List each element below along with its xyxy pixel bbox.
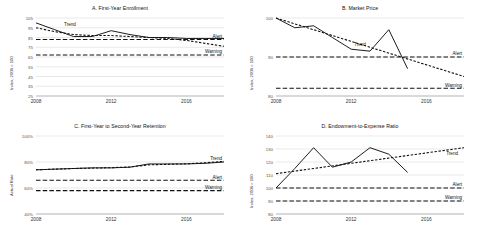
x-tick-label: 2016 — [181, 99, 192, 104]
y-tick-label: 75 — [14, 45, 33, 50]
y-tick-label: 140 — [254, 134, 273, 139]
x-tick-label: 2016 — [421, 99, 432, 104]
y-tick-label: 110 — [254, 173, 273, 178]
x-tick-label: 2012 — [346, 217, 357, 222]
warning-threshold-label: Warning — [445, 83, 462, 88]
panel-b-title: B. Market Price — [240, 5, 480, 11]
trend-line — [36, 28, 224, 47]
x-tick-label: 2012 — [106, 217, 117, 222]
x-tick-label: 2008 — [31, 99, 42, 104]
alert-threshold-label: Alert — [213, 34, 222, 39]
warning-threshold-label: Warning — [445, 195, 462, 200]
y-tick-label: 100 — [254, 16, 273, 21]
y-tick-label: 130 — [254, 147, 273, 152]
trend-line — [276, 148, 464, 174]
trend-label: Trend — [354, 42, 366, 47]
y-tick-label: 85 — [14, 35, 33, 40]
warning-threshold-label: Warning — [205, 49, 222, 54]
chart-panel-b: B. Market Price Index, 2008 = 100 100908… — [240, 0, 480, 118]
y-tick-label: 105 — [14, 16, 33, 21]
alert-threshold-label: Alert — [453, 51, 462, 56]
y-tick-label: 45 — [14, 74, 33, 79]
y-tick-label: 80% — [14, 160, 33, 165]
actual-line — [276, 148, 408, 188]
x-tick-label: 2016 — [421, 217, 432, 222]
x-tick-label: 2008 — [271, 217, 282, 222]
y-tick-label: 90 — [254, 55, 273, 60]
y-tick-label: 35 — [14, 84, 33, 89]
chart-panel-c: C. First-Year to Second-Year Retention A… — [0, 118, 240, 236]
x-tick-label: 2008 — [271, 99, 282, 104]
y-tick-label: 95 — [14, 25, 33, 30]
y-tick-label: 65 — [14, 55, 33, 60]
panel-A-svg — [36, 18, 224, 96]
y-tick-label: 100% — [14, 134, 33, 139]
trend-label: Trend — [210, 156, 222, 161]
panel-d-title: D. Endowment-to-Expense Ratio — [240, 123, 480, 129]
y-tick-label: 60% — [14, 186, 33, 191]
figure-panel-grid: A. First-Year Enrollment Index, 2008 = 1… — [0, 0, 480, 236]
chart-panel-d: D. Endowment-to-Expense Ratio Index, 200… — [240, 118, 480, 236]
alert-threshold-label: Alert — [453, 182, 462, 187]
warning-threshold-label: Warning — [205, 185, 222, 190]
actual-line — [276, 18, 408, 69]
panel-c-title: C. First-Year to Second-Year Retention — [0, 123, 240, 129]
trend-line — [36, 161, 224, 169]
trend-label: Trend — [446, 151, 458, 156]
x-tick-label: 2012 — [346, 99, 357, 104]
panel-C-svg — [36, 136, 224, 214]
trend-label: Trend — [64, 22, 76, 27]
y-tick-label: 90 — [254, 199, 273, 204]
panel-a-title: A. First-Year Enrollment — [0, 5, 240, 11]
panel-B-svg — [276, 18, 464, 96]
chart-panel-a: A. First-Year Enrollment Index, 2008 = 1… — [0, 0, 240, 118]
panel-a-plot: 1059585756555453525200820122016AlertWarn… — [36, 18, 224, 96]
panel-b-plot: 1009080200820122016AlertWarningTrend — [276, 18, 464, 96]
alert-threshold-label: Alert — [213, 175, 222, 180]
panel-D-svg — [276, 136, 464, 214]
panel-d-plot: 1401301201101009080200820122016AlertWarn… — [276, 136, 464, 214]
y-tick-label: 40% — [14, 212, 33, 217]
y-tick-label: 25 — [14, 94, 33, 99]
y-tick-label: 80 — [254, 94, 273, 99]
y-tick-label: 120 — [254, 160, 273, 165]
panel-b-y-axis-label: Index, 2008 = 100 — [249, 56, 254, 90]
x-tick-label: 2012 — [106, 99, 117, 104]
y-tick-label: 80 — [254, 212, 273, 217]
x-tick-label: 2008 — [31, 217, 42, 222]
panel-c-plot: 100%80%60%40%200820122016AlertWarningTre… — [36, 136, 224, 214]
y-tick-label: 55 — [14, 64, 33, 69]
trend-line — [276, 18, 464, 77]
x-tick-label: 2016 — [181, 217, 192, 222]
y-tick-label: 100 — [254, 186, 273, 191]
